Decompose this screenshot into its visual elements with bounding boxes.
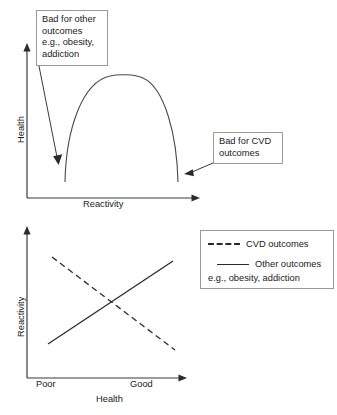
callout-cvd-leader-line	[192, 163, 213, 172]
top-chart-inverted-u-curve	[65, 75, 178, 182]
legend-swatch-dashed-icon	[208, 243, 240, 245]
top-chart-x-axis-label: Reactivity	[83, 199, 123, 209]
callout-cvd-arrow-icon	[184, 169, 194, 176]
callout-other-arrow-icon	[53, 154, 62, 165]
legend-swatch-solid-icon	[217, 264, 249, 265]
callout-bad-for-other-outcomes: Bad for other outcomes e.g., obesity, ad…	[36, 10, 108, 66]
top-chart-group	[23, 43, 213, 202]
legend-item-other-outcomes: Other outcomes	[217, 259, 321, 269]
callout-other-leader-line	[39, 66, 57, 157]
top-chart-y-axis-label: Health	[16, 116, 26, 143]
bottom-chart-y-axis-arrow-icon	[23, 226, 30, 235]
legend-note-other-outcomes: e.g., obesity, addiction	[208, 273, 300, 283]
bottom-chart-y-axis-label: Reactivity	[16, 297, 26, 337]
bottom-chart-group	[23, 226, 187, 382]
figure-reactivity-health: Bad for other outcomes e.g., obesity, ad…	[0, 0, 337, 415]
callout-bad-for-cvd-outcomes: Bad for CVD outcomes	[213, 132, 283, 164]
bottom-chart-x-axis-arrow-icon	[179, 374, 188, 381]
bottom-chart-x-tick-good: Good	[130, 379, 153, 389]
bottom-chart-legend: CVD outcomes Other outcomes e.g., obesit…	[200, 230, 334, 289]
legend-label-cvd-outcomes: CVD outcomes	[246, 239, 309, 249]
top-chart-y-axis-arrow-icon	[23, 43, 30, 52]
top-chart-x-axis-arrow-icon	[192, 194, 201, 201]
bottom-chart-x-axis-label: Health	[96, 394, 123, 404]
bottom-chart-series-cvd-outcomes	[52, 257, 175, 350]
legend-label-other-outcomes: Other outcomes	[255, 259, 321, 269]
bottom-chart-series-other-outcomes	[48, 261, 173, 344]
legend-item-cvd-outcomes: CVD outcomes	[208, 239, 309, 249]
bottom-chart-x-tick-poor: Poor	[36, 379, 56, 389]
